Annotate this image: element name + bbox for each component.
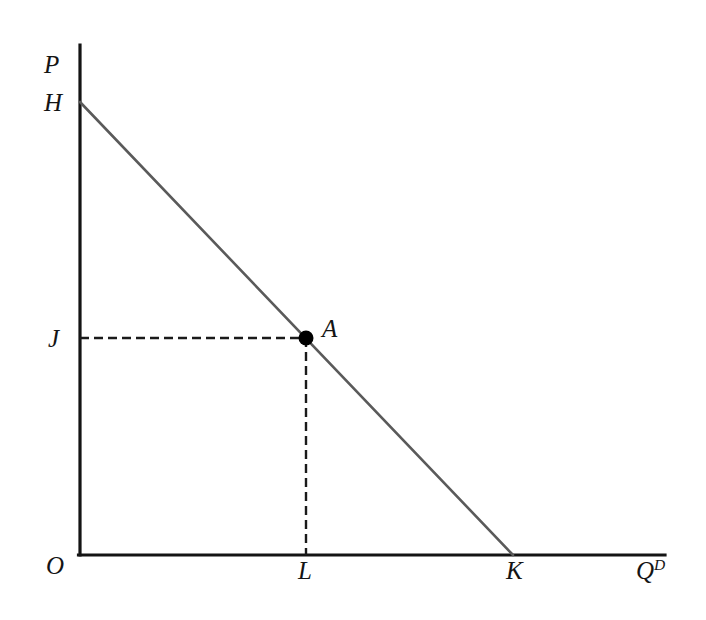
curve-y-intercept-label: H — [44, 90, 62, 115]
demand-curve-figure: P H J O L K A QD — [0, 0, 706, 620]
origin-label: O — [46, 553, 64, 578]
quantity-axis-label-superscript: D — [654, 556, 665, 573]
demand-curve-line — [80, 102, 513, 555]
point-a-marker — [299, 331, 314, 346]
quantity-level-label: L — [298, 558, 312, 583]
curve-x-intercept-label: K — [506, 558, 523, 583]
quantity-axis-label: QD — [636, 558, 665, 583]
price-axis-label: P — [44, 52, 59, 77]
diagram-canvas — [0, 0, 706, 620]
price-level-label: J — [48, 326, 59, 351]
point-a-label: A — [322, 316, 337, 341]
quantity-axis-label-base: Q — [636, 557, 654, 584]
